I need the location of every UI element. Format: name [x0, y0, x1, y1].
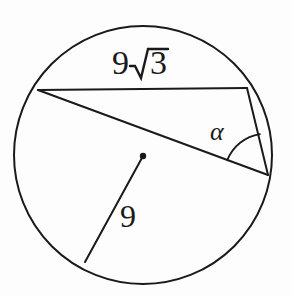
chord-coefficient-text: 9: [112, 44, 129, 81]
geometry-figure: 9 3 9 α: [0, 0, 292, 295]
circle-center-dot: [140, 153, 146, 159]
chord-ab-segment: [38, 88, 247, 90]
chord-ac-segment: [38, 90, 268, 175]
radius-length-label: 9: [120, 200, 136, 232]
chord-length-label: 9 3: [112, 46, 167, 80]
radical-sign-icon: [129, 45, 169, 81]
angle-alpha-arc: [227, 134, 260, 160]
chord-bc-segment: [247, 88, 268, 175]
square-root-group: 3: [129, 46, 167, 80]
angle-alpha-label: α: [210, 119, 224, 145]
